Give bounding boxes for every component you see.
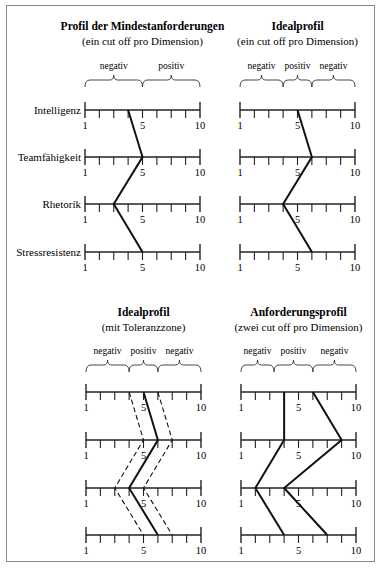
- scale-label: 1: [82, 214, 87, 225]
- scale-label: 10: [195, 120, 206, 131]
- brace-icon: [129, 360, 158, 372]
- segment-label-positiv: positiv: [131, 346, 157, 356]
- scale-label: 10: [350, 262, 361, 273]
- panel-subtitle: (ein cut off pro Dimension): [82, 35, 203, 48]
- dimension-label: Teamfähigkeit: [18, 151, 81, 163]
- scale-label: 5: [295, 120, 300, 131]
- panel-mindestanforderungen: Profil der Mindestanforderungen(ein cut …: [16, 20, 225, 273]
- scale-label: 5: [140, 120, 145, 131]
- dimension-label: Intelligenz: [34, 104, 81, 116]
- scale-label: 1: [237, 167, 242, 178]
- scale-label: 10: [196, 545, 207, 556]
- scale-stressresistenz: 1510: [83, 527, 206, 556]
- scale-label: 1: [82, 167, 87, 178]
- scale-label: 5: [141, 402, 146, 413]
- scale-stressresistenz: 1510: [238, 527, 361, 556]
- dimension-label: Rhetorik: [43, 198, 82, 210]
- profile-line-solid: [284, 392, 342, 535]
- panel-title: Idealprofil: [117, 306, 169, 319]
- brace-icon: [312, 75, 355, 87]
- scale-label: 10: [350, 167, 361, 178]
- profile-line-solid: [255, 392, 284, 535]
- profile-line-solid: [129, 392, 158, 535]
- profile-line-tolerance: [144, 392, 173, 535]
- scale-label: 1: [83, 545, 88, 556]
- scale-label: 1: [237, 120, 242, 131]
- profile-line-tolerance: [115, 392, 144, 535]
- scale-label: 1: [238, 402, 243, 413]
- scale-label: 5: [141, 545, 146, 556]
- segment-label-negativ: negativ: [100, 61, 128, 71]
- panel-subtitle: (ein cut off pro Dimension): [237, 35, 358, 48]
- scale-label: 10: [350, 214, 361, 225]
- segment-label-negativ: negativ: [248, 61, 276, 71]
- scale-label: 5: [296, 545, 301, 556]
- scale-label: 10: [351, 402, 362, 413]
- segment-label-positiv: positiv: [158, 61, 184, 71]
- scale-label: 10: [351, 545, 362, 556]
- scale-stressresistenz: 1510Stressresistenz: [16, 244, 205, 273]
- brace-icon: [85, 75, 143, 87]
- scale-label: 5: [140, 214, 145, 225]
- scale-rhetorik: 1510: [83, 480, 206, 509]
- scale-label: 5: [296, 450, 301, 461]
- profile-line-solid: [114, 110, 143, 252]
- scale-label: 10: [195, 167, 206, 178]
- scale-label: 1: [238, 450, 243, 461]
- scale-teamfähigkeit: 1510: [238, 432, 361, 461]
- brace-icon: [158, 360, 201, 372]
- scale-label: 1: [83, 402, 88, 413]
- profile-line-solid: [283, 110, 312, 252]
- panel-title: Idealprofil: [271, 20, 323, 33]
- brace-icon: [313, 360, 356, 372]
- scale-label: 5: [296, 402, 301, 413]
- scale-label: 1: [237, 214, 242, 225]
- segment-label-positiv: positiv: [285, 61, 311, 71]
- segment-label-negativ: negativ: [94, 346, 122, 356]
- scale-label: 10: [196, 450, 207, 461]
- scale-intelligenz: 1510: [238, 384, 361, 413]
- brace-icon: [143, 75, 201, 87]
- scale-label: 10: [351, 450, 362, 461]
- panel-title: Profil der Mindestanforderungen: [61, 20, 225, 33]
- scale-label: 1: [82, 120, 87, 131]
- scale-label: 10: [351, 498, 362, 509]
- segment-label-negativ: negativ: [319, 61, 347, 71]
- panel-subtitle: (mit Toleranzzone): [102, 321, 186, 334]
- brace-icon: [240, 75, 283, 87]
- segment-label-negativ: negativ: [165, 346, 193, 356]
- scale-label: 1: [237, 262, 242, 273]
- brace-icon: [86, 360, 129, 372]
- brace-icon: [283, 75, 312, 87]
- panel-subtitle: (zwei cut off pro Dimension): [234, 321, 362, 334]
- scale-label: 1: [238, 498, 243, 509]
- scale-label: 1: [83, 498, 88, 509]
- scale-label: 10: [195, 214, 206, 225]
- scale-label: 1: [238, 545, 243, 556]
- scale-label: 10: [196, 402, 207, 413]
- dimension-label: Stressresistenz: [16, 246, 81, 258]
- profile-diagram: Profil der Mindestanforderungen(ein cut …: [0, 0, 389, 576]
- scale-teamfähigkeit: 1510Teamfähigkeit: [18, 149, 206, 178]
- scale-label: 10: [196, 498, 207, 509]
- panel-anforderungsprofil: Anforderungsprofil(zwei cut off pro Dime…: [234, 306, 362, 556]
- segment-label-negativ: negativ: [320, 346, 348, 356]
- brace-icon: [274, 360, 313, 372]
- scale-label: 5: [140, 262, 145, 273]
- scale-teamfähigkeit: 1510: [237, 149, 360, 178]
- scale-teamfähigkeit: 1510: [83, 432, 206, 461]
- panel-idealprofil: Idealprofil(ein cut off pro Dimension)ne…: [237, 20, 360, 273]
- panel-title: Anforderungsprofil: [250, 306, 346, 319]
- scale-stressresistenz: 1510: [237, 244, 360, 273]
- scale-label: 10: [350, 120, 361, 131]
- scale-label: 10: [195, 262, 206, 273]
- segment-label-positiv: positiv: [281, 346, 307, 356]
- scale-rhetorik: 1510: [237, 196, 360, 225]
- scale-label: 1: [83, 450, 88, 461]
- brace-icon: [241, 360, 274, 372]
- segment-label-negativ: negativ: [244, 346, 272, 356]
- scale-intelligenz: 1510Intelligenz: [34, 102, 205, 131]
- scale-label: 5: [295, 262, 300, 273]
- panel-idealprofil-toleranz: Idealprofil(mit Toleranzzone)negativposi…: [83, 306, 206, 556]
- scale-label: 5: [140, 167, 145, 178]
